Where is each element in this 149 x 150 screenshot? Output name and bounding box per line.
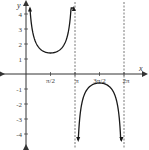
axes bbox=[2, 3, 145, 147]
function-graph: π/2π3π/22π4321-1-2-3-4 x y bbox=[0, 0, 149, 150]
y-tick-label: 4 bbox=[19, 11, 23, 19]
y-tick-label: -1 bbox=[16, 86, 22, 94]
curve-arrow-icon bbox=[119, 137, 123, 142]
y-axis-label: y bbox=[16, 1, 21, 10]
y-tick-label: -3 bbox=[16, 116, 22, 124]
curve-arrow-icon bbox=[28, 7, 32, 12]
x-tick-label: π bbox=[75, 77, 79, 85]
y-tick-label: 3 bbox=[19, 26, 23, 34]
y-tick-label: -2 bbox=[16, 101, 22, 109]
x-tick-label: π/2 bbox=[46, 77, 55, 85]
lower-branch-curve bbox=[78, 83, 121, 140]
curve-arrow-icon bbox=[76, 137, 80, 142]
y-tick-label: 1 bbox=[19, 56, 23, 64]
x-axis-label: x bbox=[138, 64, 143, 73]
y-tick-label: 2 bbox=[19, 41, 23, 49]
upper-branch-curve bbox=[30, 8, 74, 53]
x-tick-label: 2π bbox=[122, 77, 130, 85]
y-tick-label: -4 bbox=[16, 131, 22, 139]
